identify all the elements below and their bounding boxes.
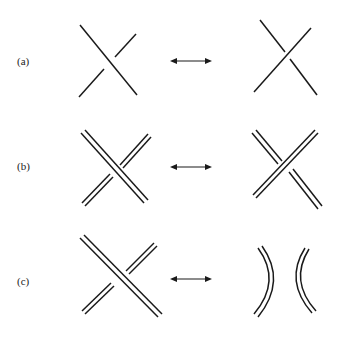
double-arrow-c-icon bbox=[170, 276, 212, 282]
diagram-canvas bbox=[0, 0, 340, 340]
crossing-b-right bbox=[252, 130, 322, 209]
knot-moves-figure: (a) (b) (c) bbox=[0, 0, 340, 340]
crossing-c-left bbox=[80, 235, 162, 317]
double-arrow-a-icon bbox=[170, 58, 212, 64]
smoothing-c-right bbox=[254, 246, 316, 317]
crossing-b-left bbox=[81, 130, 151, 206]
double-arrow-b-icon bbox=[170, 164, 212, 170]
crossing-a-right bbox=[254, 20, 317, 95]
crossing-a-left bbox=[79, 25, 137, 97]
